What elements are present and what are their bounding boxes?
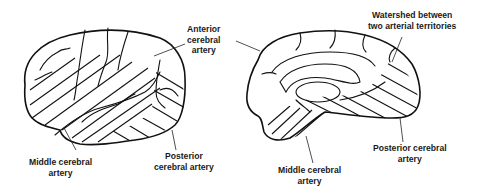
label-line: artery (187, 45, 220, 56)
label-line: Anterior (187, 24, 220, 35)
label-watershed: Watershed between two arterial territori… (368, 10, 456, 31)
label-line: Middle cerebral (278, 165, 341, 176)
label-line: Posterior (154, 151, 214, 162)
label-line: Posterior cerebral (373, 143, 447, 154)
label-line: artery (278, 176, 341, 187)
leader-anterior-medial (236, 41, 260, 51)
label-line: artery (29, 168, 92, 179)
label-posterior-cerebral-artery-lateral: Posterior cerebral artery (154, 151, 214, 172)
label-line: cerebral artery (154, 162, 214, 173)
label-posterior-cerebral-artery-medial: Posterior cerebral artery (373, 143, 447, 164)
medial-brain-outline (247, 31, 420, 140)
label-anterior-cerebral-artery-lateral: Anterior cerebral artery (187, 24, 220, 56)
label-line: Middle cerebral (29, 157, 92, 168)
label-line: cerebral (187, 35, 220, 46)
label-line: Watershed between (368, 10, 456, 21)
leader-middle-medial (306, 136, 313, 163)
label-line: artery (373, 154, 447, 165)
leader-posterior-medial (400, 118, 403, 142)
label-line: two arterial territories (368, 21, 456, 32)
label-middle-cerebral-artery-lateral: Middle cerebral artery (29, 157, 92, 178)
medial-brain-view (247, 30, 420, 140)
leader-posterior-lateral (172, 130, 176, 150)
lateral-brain-outline (25, 30, 185, 145)
lateral-brain-view (25, 28, 185, 145)
label-middle-cerebral-artery-medial: Middle cerebral artery (278, 165, 341, 186)
